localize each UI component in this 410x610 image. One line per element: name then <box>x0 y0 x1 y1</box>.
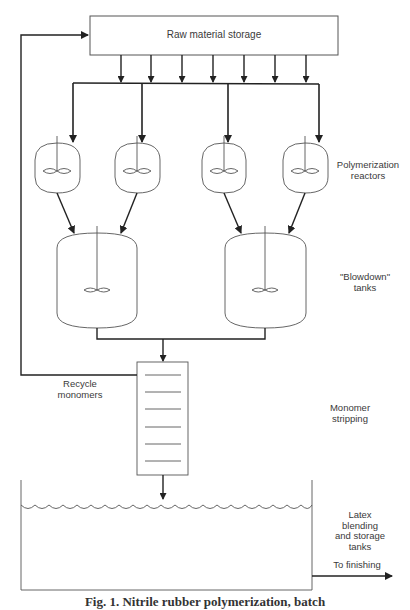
latex-tanks-label: Latex blending and storage tanks <box>325 510 395 552</box>
reactor-discharge-arrows <box>57 193 305 233</box>
recycle-monomers-label: Recycle monomers <box>50 379 110 400</box>
reactor-4 <box>283 136 328 193</box>
monomer-stripping-label: Monomer stripping <box>322 403 378 424</box>
blowdown-manifold <box>97 328 265 361</box>
stripping-column <box>137 362 188 475</box>
figure-caption: Fig. 1. Nitrile rubber polymerization, b… <box>0 594 410 610</box>
recycle-line <box>21 35 137 375</box>
reactor-1 <box>35 136 80 193</box>
reactor-2 <box>115 136 160 193</box>
reactors-label: Polymerization reactors <box>328 160 408 181</box>
raw-material-storage-label: Raw material storage <box>90 30 338 41</box>
feed-header <box>73 83 319 142</box>
to-finishing-label: To finishing <box>322 560 392 571</box>
reactor-3 <box>202 136 246 193</box>
latex-tank <box>21 480 312 590</box>
feed-arrows <box>121 55 306 82</box>
blowdown-tanks-label: "Blowdown" tanks <box>325 272 405 293</box>
blowdown-tank-2 <box>225 226 306 328</box>
blowdown-tank-1 <box>57 226 137 328</box>
